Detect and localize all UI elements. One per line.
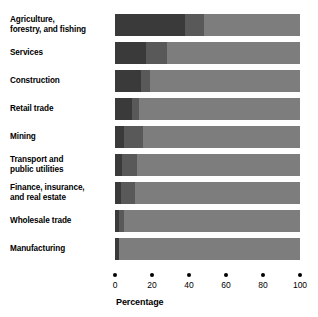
bar-segment <box>135 182 300 204</box>
bar-segment <box>115 154 122 176</box>
bar-segment <box>115 98 132 120</box>
chart-row: Retail trade <box>0 98 318 120</box>
axis-tick-label: 0 <box>113 280 118 290</box>
axis-tick-dot <box>298 273 302 277</box>
bar-segment <box>119 238 300 260</box>
category-label: Services <box>10 48 110 58</box>
category-label: Construction <box>10 76 110 86</box>
bar-segment <box>115 14 185 36</box>
bar-segment <box>115 70 141 92</box>
axis-tick-label: 60 <box>221 280 230 290</box>
category-label: Mining <box>10 132 110 142</box>
chart-row: Services <box>0 42 318 64</box>
chart-rows: Agriculture, forestry, and fishingServic… <box>0 14 318 266</box>
bar-track <box>115 238 300 260</box>
category-label: Agriculture, forestry, and fishing <box>10 15 110 35</box>
chart-row: Mining <box>0 126 318 148</box>
bar-track <box>115 182 300 204</box>
axis-tick-dot <box>187 273 191 277</box>
bar-segment <box>124 210 300 232</box>
stacked-bar-chart: Agriculture, forestry, and fishingServic… <box>0 0 318 317</box>
chart-row: Transport and public utilities <box>0 154 318 176</box>
bar-track <box>115 14 300 36</box>
bar-segment <box>115 42 146 64</box>
bar-segment <box>132 98 139 120</box>
category-label: Transport and public utilities <box>10 155 110 175</box>
chart-row: Construction <box>0 70 318 92</box>
axis-tick-label: 40 <box>184 280 193 290</box>
axis-tick-dot <box>150 273 154 277</box>
axis-tick-dot <box>113 273 117 277</box>
axis-tick-dot <box>224 273 228 277</box>
chart-row: Manufacturing <box>0 238 318 260</box>
chart-row: Wholesale trade <box>0 210 318 232</box>
bar-track <box>115 210 300 232</box>
bar-track <box>115 126 300 148</box>
bar-track <box>115 98 300 120</box>
bar-segment <box>167 42 300 64</box>
bar-segment <box>139 98 300 120</box>
bar-segment <box>204 14 300 36</box>
category-label: Finance, insurance, and real estate <box>10 183 110 203</box>
bar-segment <box>143 126 300 148</box>
bar-segment <box>146 42 166 64</box>
bar-track <box>115 42 300 64</box>
bar-track <box>115 154 300 176</box>
chart-row: Agriculture, forestry, and fishing <box>0 14 318 36</box>
bar-track <box>115 70 300 92</box>
x-axis-title: Percentage <box>116 297 164 307</box>
category-label: Wholesale trade <box>10 216 110 226</box>
bar-segment <box>121 182 136 204</box>
chart-row: Finance, insurance, and real estate <box>0 182 318 204</box>
bar-segment <box>115 126 124 148</box>
axis-tick-label: 80 <box>258 280 267 290</box>
x-axis: 020406080100 <box>115 273 300 297</box>
axis-tick-label: 100 <box>293 280 307 290</box>
bar-segment <box>150 70 300 92</box>
axis-tick-dot <box>261 273 265 277</box>
bar-segment <box>141 70 150 92</box>
bar-segment <box>137 154 300 176</box>
bar-segment <box>122 154 137 176</box>
axis-tick-label: 20 <box>147 280 156 290</box>
category-label: Manufacturing <box>10 244 110 254</box>
category-label: Retail trade <box>10 104 110 114</box>
bar-segment <box>185 14 204 36</box>
bar-segment <box>124 126 143 148</box>
